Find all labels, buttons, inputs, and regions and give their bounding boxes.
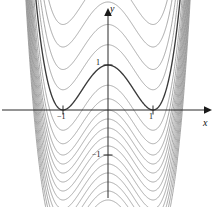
tick-label-y-pos1: 1: [96, 59, 100, 67]
graph-figure: y x −1 1 1 −1: [0, 0, 217, 207]
tick-label-x-pos1: 1: [149, 113, 153, 121]
tick-label-y-neg1: −1: [92, 151, 101, 159]
y-axis-label: y: [110, 4, 114, 14]
tick-label-x-neg1: −1: [57, 113, 66, 121]
plot-canvas: [0, 0, 217, 207]
x-axis-label: x: [203, 118, 207, 128]
